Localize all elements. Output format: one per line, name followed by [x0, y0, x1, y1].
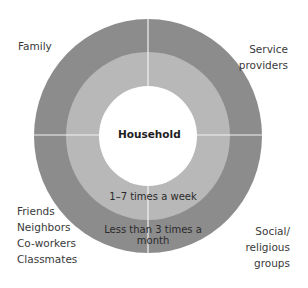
label-line: groups	[245, 255, 290, 271]
ring-label-inner: 1–7 times a week	[98, 191, 208, 202]
label-line: Co-workers	[17, 235, 77, 251]
ring-label-outer: Less than 3 times a month	[88, 224, 218, 246]
quadrant-label-service-providers: Service providers	[239, 41, 288, 73]
quadrant-label-social-religious: Social/ religious groups	[245, 223, 290, 271]
quadrant-label-friends: Friends Neighbors Co-workers Classmates	[17, 203, 77, 267]
center-label-household: Household	[118, 128, 178, 140]
label-line: Service	[239, 41, 288, 57]
label-line: Social/	[245, 223, 290, 239]
label-line: Neighbors	[17, 219, 77, 235]
label-line: providers	[239, 57, 288, 73]
label-line: Family	[18, 38, 52, 54]
label-line: religious	[245, 239, 290, 255]
quadrant-label-family: Family	[18, 38, 52, 54]
label-line: Friends	[17, 203, 77, 219]
label-line: Classmates	[17, 251, 77, 267]
